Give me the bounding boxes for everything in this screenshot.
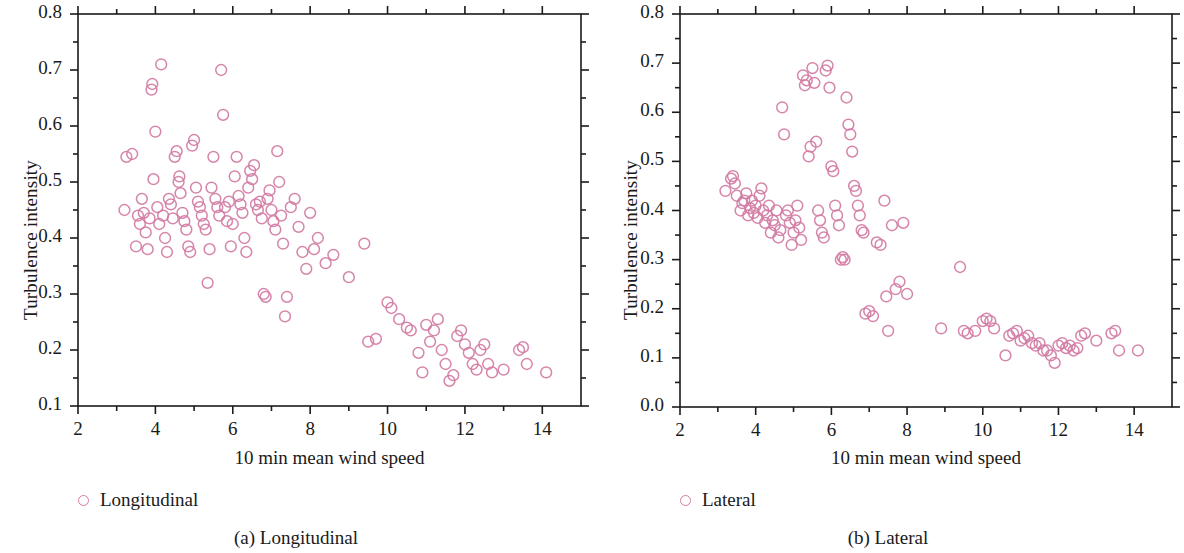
x-tick-label: 10 — [358, 418, 418, 440]
legend-label: Lateral — [702, 489, 756, 511]
x-tick-label: 10 — [953, 419, 1013, 441]
panel-caption: (a) Longitudinal — [0, 527, 592, 549]
panel-b: Turbulence intensity 10 min mean wind sp… — [592, 0, 1184, 553]
y-tick-label: 0.1 — [602, 345, 664, 367]
legend-panel-b: Lateral — [680, 489, 756, 511]
x-tick-label: 4 — [726, 419, 786, 441]
x-tick-label: 6 — [203, 418, 263, 440]
y-tick-label: 0.3 — [602, 247, 664, 269]
scatter-series — [720, 60, 1143, 368]
y-tick-label: 0.5 — [602, 148, 664, 170]
panel-caption: (b) Lateral — [592, 527, 1184, 549]
x-tick-label: 14 — [512, 418, 572, 440]
legend-circle-icon — [680, 495, 691, 506]
y-tick-label: 0.3 — [0, 281, 62, 303]
x-axis-label: 10 min mean wind speed — [680, 447, 1172, 469]
y-tick-label: 0.2 — [0, 337, 62, 359]
y-tick-label: 0.7 — [602, 50, 664, 72]
x-tick-label: 6 — [801, 419, 861, 441]
y-tick-label: 0.7 — [0, 57, 62, 79]
y-tick-label: 0.1 — [0, 393, 62, 415]
scatter-series — [119, 59, 552, 386]
x-tick-label: 8 — [877, 419, 937, 441]
y-tick-label: 0.8 — [602, 1, 664, 23]
panel-a: Turbulence intensity 10 min mean wind sp… — [0, 0, 592, 553]
y-tick-label: 0.8 — [0, 1, 62, 23]
x-axis-label: 10 min mean wind speed — [78, 447, 581, 469]
y-tick-label: 0.2 — [602, 296, 664, 318]
legend-panel-a: Longitudinal — [78, 489, 198, 511]
x-tick-label: 12 — [435, 418, 495, 440]
x-tick-label: 8 — [280, 418, 340, 440]
y-tick-label: 0.0 — [602, 394, 664, 416]
y-tick-label: 0.6 — [602, 99, 664, 121]
y-tick-label: 0.4 — [0, 225, 62, 247]
x-tick-label: 4 — [125, 418, 185, 440]
y-tick-label: 0.4 — [602, 198, 664, 220]
y-tick-label: 0.6 — [0, 113, 62, 135]
y-tick-label: 0.5 — [0, 169, 62, 191]
panel-a-plot — [0, 0, 592, 553]
legend-label: Longitudinal — [100, 489, 198, 511]
x-tick-label: 2 — [48, 418, 108, 440]
legend-circle-icon — [78, 495, 89, 506]
x-tick-label: 14 — [1104, 419, 1164, 441]
figure-two-panel-scatter: Turbulence intensity 10 min mean wind sp… — [0, 0, 1184, 553]
x-tick-label: 2 — [650, 419, 710, 441]
panel-b-plot — [592, 0, 1184, 553]
x-tick-label: 12 — [1028, 419, 1088, 441]
